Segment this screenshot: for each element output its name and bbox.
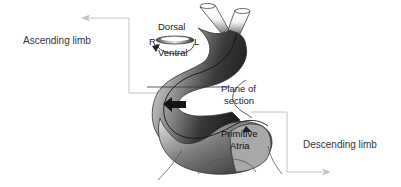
outflow-vessels	[200, 4, 250, 35]
ventral-label: Ventral	[158, 48, 188, 58]
plane-of-section-label-line2: section	[224, 96, 254, 106]
primitive-atria-label-line2: Atria	[230, 141, 250, 151]
diagram-graphics	[0, 0, 401, 187]
primitive-atria-label-line1: Primitive	[221, 129, 257, 139]
heart-tube-looping-diagram: Ascending limb Descending limb Dorsal R …	[0, 0, 401, 187]
descending-limb-label: Descending limb	[303, 140, 377, 150]
dorsal-label: Dorsal	[158, 22, 185, 32]
left-label: L	[194, 37, 199, 47]
plane-of-section-label-line1: Plane of	[221, 84, 256, 94]
right-label: R	[149, 37, 156, 47]
ascending-limb-label: Ascending limb	[23, 36, 91, 46]
